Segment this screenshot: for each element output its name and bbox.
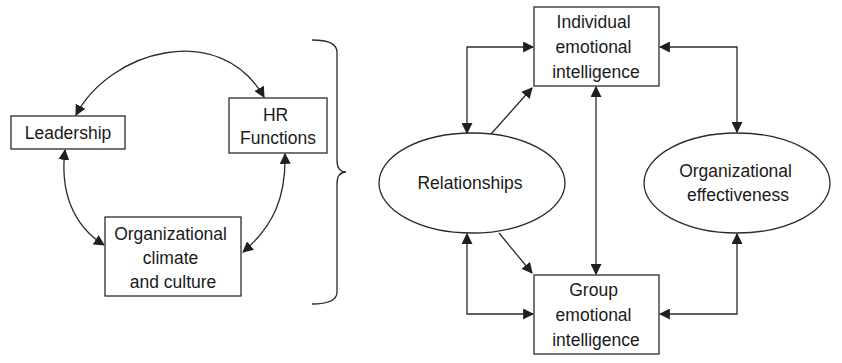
edge-individual-orgeff-elbow bbox=[660, 47, 737, 132]
right-group-labels: Individual emotional intelligence Group … bbox=[417, 12, 796, 350]
edge-hr-climate bbox=[243, 154, 285, 252]
emotional-intelligence-diagram: Leadership HR Functions Organizational c… bbox=[0, 0, 842, 363]
node-hr-functions-label: HR Functions bbox=[240, 105, 316, 148]
edge-relationships-group-elbow bbox=[467, 234, 533, 314]
edge-relationships-individual-diagonal bbox=[491, 88, 532, 134]
edge-leadership-climate bbox=[64, 150, 104, 245]
node-group-ei-label: Group emotional intelligence bbox=[552, 280, 640, 350]
node-relationships-label: Relationships bbox=[417, 173, 522, 193]
node-org-climate-label: Organizational climate and culture bbox=[114, 224, 232, 292]
node-individual-ei-label: Individual emotional intelligence bbox=[552, 12, 640, 82]
node-org-effectiveness-ellipse bbox=[644, 133, 830, 233]
edge-relationships-individual-elbow bbox=[467, 47, 533, 133]
node-leadership-label: Leadership bbox=[25, 123, 112, 143]
edge-leadership-hr bbox=[76, 51, 264, 115]
right-curly-brace bbox=[312, 40, 346, 304]
edge-group-orgeff-elbow bbox=[660, 234, 737, 314]
edge-relationships-group-diagonal bbox=[499, 233, 532, 273]
node-org-effectiveness-label: Organizational effectiveness bbox=[679, 161, 797, 205]
